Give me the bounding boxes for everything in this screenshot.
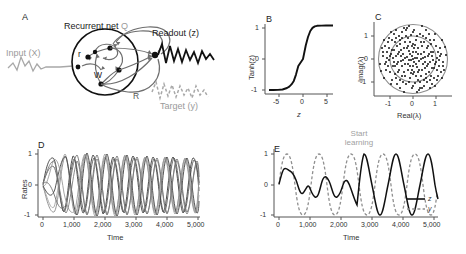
panel-e-xtick-4000: 4,000 xyxy=(392,221,410,228)
readout-trace xyxy=(279,154,438,215)
panel-e-ytick-0: 0 xyxy=(264,181,268,188)
panel-c-xtick-neg1: -1 xyxy=(385,100,391,107)
panel-c-xlabel: Real(λ) xyxy=(397,111,421,120)
panel-b-xlabel: z xyxy=(297,110,301,119)
panel-e-xtick-0: 0 xyxy=(276,221,280,228)
panel-d-xtick-5000: 5,000 xyxy=(187,221,205,228)
panel-a: A xyxy=(0,0,233,127)
panel-d-xtick-4000: 4,000 xyxy=(156,221,174,228)
legend-label-z: z xyxy=(428,195,432,202)
panel-e: E Start learning 1 0 -1 xyxy=(233,127,466,254)
panel-e-ytick-neg1: -1 xyxy=(260,211,266,218)
recurrent-net-symbol: Q xyxy=(121,21,128,31)
panel-d-ylabel: Rates xyxy=(20,179,29,199)
readout-label: Readout (z) xyxy=(152,28,199,38)
recurrent-net-text: Recurrent net xyxy=(64,21,119,31)
panel-d-xtick-1000: 1,000 xyxy=(63,221,81,228)
recurrent-edge-3 xyxy=(110,48,122,68)
target-trace xyxy=(279,154,437,215)
panel-d-xlabel: Time xyxy=(107,233,123,242)
rate-traces xyxy=(43,153,199,216)
panel-b-xtick-0: 0 xyxy=(300,98,304,105)
readout-arrowhead-1 xyxy=(148,50,152,54)
panel-a-diagram xyxy=(0,0,233,127)
panel-d-ytick-1: 1 xyxy=(28,150,32,157)
panel-e-xlabel: Time xyxy=(343,233,359,242)
tanh-curve xyxy=(269,26,333,91)
panel-e-xtick-2000: 2,000 xyxy=(330,221,348,228)
panel-e-xtick-1000: 1,000 xyxy=(299,221,317,228)
panel-e-xtick-5000: 5,000 xyxy=(423,221,441,228)
unit-node xyxy=(85,54,90,59)
panel-b: B 1 0 -1 -5 0 5 z Tanh(z) xyxy=(233,0,338,127)
panel-b-ytick-1: 1 xyxy=(255,24,259,31)
panel-b-xtick-5: 5 xyxy=(324,98,328,105)
unit-node xyxy=(93,50,97,54)
panel-e-xtick-3000: 3,000 xyxy=(361,221,379,228)
target-label: Target (y) xyxy=(160,101,198,111)
readout-node xyxy=(152,52,158,58)
node-r-label: r xyxy=(78,49,81,59)
panel-d-xtick-2000: 2,000 xyxy=(94,221,112,228)
panel-d-ytick-neg1: -1 xyxy=(24,211,30,218)
legend-label-y: y xyxy=(428,205,432,212)
panel-d-xtick-3000: 3,000 xyxy=(125,221,143,228)
panel-b-xtick-neg5: -5 xyxy=(273,98,279,105)
panel-b-ytick-neg1: -1 xyxy=(251,86,257,93)
panel-c-xtick-1: 1 xyxy=(433,100,437,107)
recurrent-net-circle xyxy=(72,29,138,95)
recurrent-net-label: Recurrent net Q xyxy=(64,21,128,31)
target-waveform xyxy=(152,82,208,98)
panel-c-ytick-1: 1 xyxy=(364,32,368,39)
unit-node xyxy=(76,65,81,70)
input-waveform xyxy=(8,57,60,71)
figure-canvas: A xyxy=(0,0,466,254)
panel-d-xtick-0: 0 xyxy=(40,221,44,228)
panel-c-xtick-0: 0 xyxy=(410,100,414,107)
input-arrow xyxy=(60,66,73,67)
feedback-r-label: R xyxy=(133,91,139,101)
readout-waveform xyxy=(158,44,214,63)
recurrent-edge-8 xyxy=(88,48,110,57)
panel-b-ylabel: Tanh(z) xyxy=(247,55,256,80)
panel-e-ytick-1: 1 xyxy=(264,150,268,157)
panel-c: C xyxy=(338,0,466,127)
panel-c-ylabel: Imag(λ) xyxy=(356,57,365,82)
input-label: Input (X) xyxy=(6,48,41,58)
eigenvalue-points xyxy=(379,25,447,93)
panel-d: D 1 0 -1 xyxy=(0,127,233,254)
node-w-label: W xyxy=(94,70,102,80)
readout-edge-3 xyxy=(101,58,152,84)
